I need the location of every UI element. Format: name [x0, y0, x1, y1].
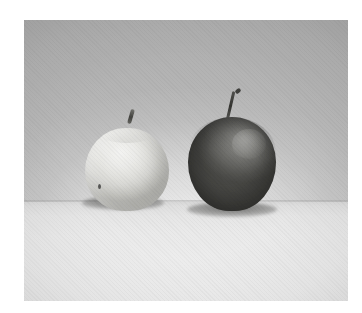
photo-caption: Two apples side by side on a table: [0, 0, 1, 1]
apple-light: Pale apple: [85, 128, 169, 211]
apple-light-label: Pale apple: [85, 128, 86, 129]
tabletop-surface: [24, 202, 348, 301]
apple-light-blemish: [98, 184, 101, 189]
photograph: Pale apple Dark apple: [24, 20, 348, 301]
apple-light-crown: [99, 125, 155, 143]
apple-dark-highlight: [232, 129, 266, 159]
apple-dark: Dark apple: [188, 117, 276, 211]
screenshot-root: Pale apple Dark apple Two apples side by…: [0, 0, 362, 313]
apple-dark-label: Dark apple: [188, 117, 189, 118]
